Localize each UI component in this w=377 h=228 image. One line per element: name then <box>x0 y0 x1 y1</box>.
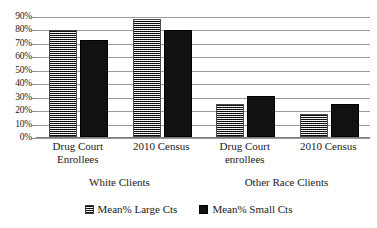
legend-item-1[interactable]: Mean% Small Cts <box>199 203 292 215</box>
bar-large-cts-2 <box>216 104 244 137</box>
y-axis-tick-label: 40% <box>2 79 32 89</box>
y-axis-tick-label: 30% <box>2 93 32 103</box>
x-axis-group-labels: White ClientsOther Race Clients <box>36 176 370 194</box>
large-cts-swatch-icon <box>85 205 94 214</box>
plot-area <box>36 17 370 138</box>
x-axis-category-label-2: Drug Courtenrollees <box>203 140 287 165</box>
group-label-0: White Clients <box>36 176 203 189</box>
y-axis-tick-label: 80% <box>2 26 32 36</box>
x-axis-category-label-0: Drug CourtEnrollees <box>36 140 120 165</box>
gridline-0 <box>36 138 370 139</box>
bar-large-cts-0 <box>49 30 77 137</box>
y-axis-tick-label: 70% <box>2 39 32 49</box>
group-label-1: Other Race Clients <box>203 176 370 189</box>
category-label-line: 2010 Census <box>120 140 204 153</box>
tick-mark-0 <box>32 138 36 139</box>
x-axis-category-label-3: 2010 Census <box>287 140 371 153</box>
y-axis-tick-label: 0% <box>2 133 32 143</box>
bar-chart: 0%10%20%30%40%50%60%70%80%90% Drug Court… <box>0 0 377 228</box>
bars-container <box>36 17 370 137</box>
y-axis-labels: 0%10%20%30%40%50%60%70%80%90% <box>0 17 32 138</box>
y-axis-tick-label: 20% <box>2 106 32 116</box>
x-axis-line <box>36 137 370 138</box>
bar-small-cts-1 <box>164 30 192 137</box>
x-axis-category-label-1: 2010 Census <box>120 140 204 153</box>
chart-title-clipped <box>6 0 336 3</box>
x-axis-category-labels: Drug CourtEnrollees2010 CensusDrug Court… <box>36 140 370 170</box>
bar-large-cts-1 <box>133 19 161 137</box>
small-cts-swatch-icon <box>199 205 208 214</box>
legend-item-0[interactable]: Mean% Large Cts <box>85 203 178 215</box>
y-axis-tick-label: 10% <box>2 120 32 130</box>
bar-small-cts-2 <box>247 96 275 137</box>
bar-small-cts-3 <box>331 104 359 137</box>
y-axis-tick-label: 60% <box>2 53 32 63</box>
bar-large-cts-3 <box>300 114 328 138</box>
category-label-line: 2010 Census <box>287 140 371 153</box>
legend-label: Mean% Large Cts <box>98 203 178 215</box>
category-label-line: Enrollees <box>36 153 120 166</box>
legend-label: Mean% Small Cts <box>212 203 292 215</box>
chart-legend: Mean% Large CtsMean% Small Cts <box>0 203 377 215</box>
y-axis-tick-label: 50% <box>2 66 32 76</box>
category-label-line: Drug Court <box>36 140 120 153</box>
category-label-line: Drug Court <box>203 140 287 153</box>
bar-small-cts-0 <box>80 40 108 137</box>
y-axis-tick-label: 90% <box>2 12 32 22</box>
category-label-line: enrollees <box>203 153 287 166</box>
